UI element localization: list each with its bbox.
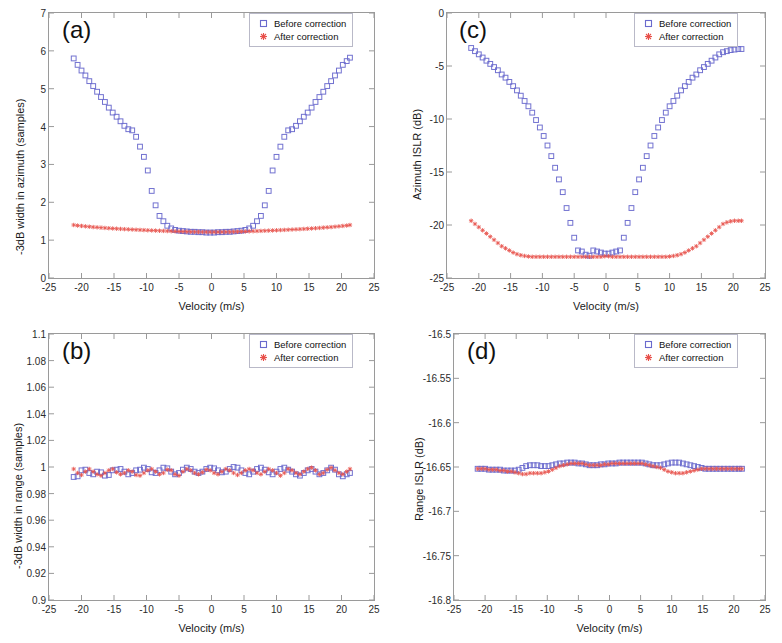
x-tick-label: 20 [728,282,739,293]
x-tick-label: 10 [664,282,675,293]
legend-d: Before correction After correction [634,334,738,368]
y-tick-label: 4 [2,121,46,132]
x-tick-label: 15 [697,604,708,615]
panel-c: (c) Velocity (m/s) Azimuth ISLR (dB) Bef… [391,0,782,321]
open-square-marker-icon [254,340,272,349]
legend-row-after: After correction [639,30,731,43]
plot-area-d [453,333,766,601]
x-tick-label: -25 [42,604,56,615]
legend-label-after: After correction [272,352,338,363]
x-tick-label: 0 [209,282,215,293]
panel-b: (b) Velocity (m/s) -3dB width in range (… [0,321,391,643]
x-tick-label: -5 [175,282,184,293]
y-tick-label: 1 [2,235,46,246]
y-tick-label: 2 [2,197,46,208]
x-tick-label: -25 [42,282,56,293]
legend-label-after: After correction [657,352,723,363]
y-tick-label: -16.65 [393,462,451,473]
x-tick-label: 5 [635,282,641,293]
x-tick-label: 5 [638,604,644,615]
legend-label-after: After correction [657,31,723,42]
x-tick-label: 25 [368,604,379,615]
legend-label-before: Before correction [272,339,346,350]
x-tick-label: -20 [478,604,492,615]
x-tick-label: -10 [540,604,554,615]
y-tick-label: 1.04 [2,408,46,419]
x-tick-label: -25 [447,604,461,615]
asterisk-marker-icon [254,353,272,362]
y-tick-label: 0 [2,273,46,284]
data-layer-a [49,13,374,278]
y-tick-label: 7 [2,8,46,19]
x-tick-label: 0 [603,282,609,293]
x-tick-label: -20 [74,282,88,293]
x-tick-label: -10 [139,282,153,293]
x-tick-label: -15 [107,604,121,615]
asterisk-marker-icon [254,32,272,41]
series-after [475,461,744,476]
x-tick-label: 20 [336,604,347,615]
y-tick-label: 0.9 [2,595,46,606]
y-tick-label: 3 [2,159,46,170]
x-tick-label: -5 [570,282,579,293]
legend-row-before: Before correction [639,17,731,30]
legend-c: Before correction After correction [634,13,738,47]
panel-label-b: (b) [62,337,91,365]
x-tick-label: -25 [440,282,454,293]
y-tick-label: 1.1 [2,329,46,340]
legend-row-after: After correction [254,351,346,364]
y-tick-label: -16.5 [393,329,451,340]
plot-area-a [48,12,375,279]
plot-area-b [48,333,375,601]
panel-label-a: (a) [62,16,91,44]
x-tick-label: -10 [139,604,153,615]
y-tick-label: 1.08 [2,355,46,366]
x-tick-label: -10 [535,282,549,293]
series-before [469,46,744,259]
legend-row-before: Before correction [254,338,346,351]
y-tick-label: 0.92 [2,568,46,579]
y-tick-label: -5 [394,61,444,72]
plot-area-c [446,12,766,279]
x-tick-label: 0 [209,604,215,615]
y-tick-label: 0.98 [2,488,46,499]
x-tick-label: -5 [574,604,583,615]
x-axis-label-c: Velocity (m/s) [446,300,766,312]
legend-row-after: After correction [254,30,346,43]
x-tick-label: -20 [74,604,88,615]
y-tick-label: -16.7 [393,506,451,517]
x-tick-label: -15 [503,282,517,293]
legend-row-after: After correction [639,351,731,364]
y-tick-label: -20 [394,220,444,231]
x-tick-label: 25 [759,604,770,615]
panel-d: (d) Velocity (m/s) Range ISLR (dB) Befor… [391,321,782,643]
x-axis-label-a: Velocity (m/s) [48,300,375,312]
x-tick-label: 15 [303,282,314,293]
x-tick-label: 5 [241,604,247,615]
y-tick-label: -16.55 [393,373,451,384]
x-tick-label: -20 [472,282,486,293]
open-square-marker-icon [639,340,657,349]
x-tick-label: 20 [336,282,347,293]
figure-canvas: (a) Velocity (m/s) -3dB width in azimuth… [0,0,782,643]
x-tick-label: 10 [271,282,282,293]
series-before [71,55,352,235]
x-tick-label: 10 [271,604,282,615]
y-tick-label: -25 [394,273,444,284]
panel-label-c: (c) [459,16,487,44]
asterisk-marker-icon [639,353,657,362]
y-tick-label: 1.02 [2,435,46,446]
data-layer-c [447,13,765,278]
y-tick-label: 0.96 [2,515,46,526]
open-square-marker-icon [639,19,657,28]
x-tick-label: -15 [509,604,523,615]
panel-label-d: (d) [467,337,496,365]
y-tick-label: 1.06 [2,382,46,393]
legend-label-after: After correction [272,31,338,42]
y-tick-label: -15 [394,167,444,178]
y-tick-label: 0.94 [2,541,46,552]
open-square-marker-icon [254,19,272,28]
panel-a: (a) Velocity (m/s) -3dB width in azimuth… [0,0,391,321]
data-layer-d [454,334,765,600]
y-tick-label: 6 [2,45,46,56]
